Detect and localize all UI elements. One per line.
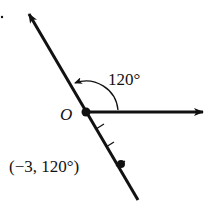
plotted-point [117,160,125,168]
polar-diagram: O 120° (−3, 120°) [0,0,210,201]
angle-label: 120° [108,70,140,89]
origin-point [82,108,91,117]
stray-dot [1,16,3,18]
point-label: (−3, 120°) [9,157,79,176]
tick-mark-1 [96,124,104,129]
tick-marks [96,124,125,166]
origin-label: O [60,105,72,124]
